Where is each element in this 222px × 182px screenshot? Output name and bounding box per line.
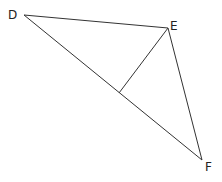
label-e: E — [170, 19, 178, 33]
segment-df — [24, 15, 202, 160]
triangle-diagram: D E F — [0, 0, 222, 182]
segment-ef — [168, 28, 202, 160]
label-f: F — [205, 160, 212, 174]
label-d: D — [8, 8, 17, 22]
altitude-from-e — [119, 28, 168, 93]
segment-de — [24, 15, 168, 28]
